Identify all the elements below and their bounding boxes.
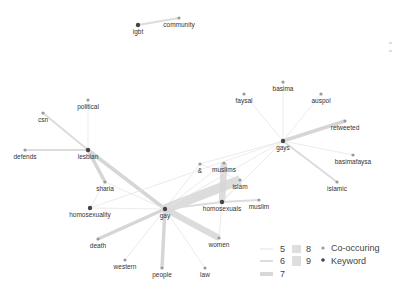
node-label: basimafaysa	[335, 158, 372, 166]
cooccurring-node-dot-icon	[242, 92, 245, 95]
cooccurring-node-dot-icon	[103, 180, 106, 183]
node-amp[interactable]: &	[198, 162, 203, 174]
edge-gays-amp	[200, 141, 283, 164]
node-basima[interactable]: basima	[273, 80, 294, 92]
cooccurring-node-dot-icon	[123, 258, 126, 261]
node-label: islamic	[327, 185, 348, 192]
cooccurring-node-dot-icon	[160, 266, 163, 269]
legend-weight-9: 9	[292, 256, 311, 266]
node-people[interactable]: people	[152, 266, 172, 279]
node-label: women	[208, 241, 230, 248]
cooccurring-node-dot-icon	[222, 161, 225, 164]
node-label: political	[77, 103, 99, 111]
legend-cooccurring: Co-occuring	[321, 243, 379, 253]
node-sharia[interactable]: sharia	[96, 180, 114, 192]
cooccurring-node-dot-icon	[351, 153, 354, 156]
legend-weight-6: 6	[260, 256, 285, 266]
edge-lesbian-csn	[43, 113, 88, 150]
node-label: western	[113, 263, 137, 270]
cooccurring-node-dot-icon	[86, 98, 89, 101]
cooccurring-node-dot-icon	[198, 162, 201, 165]
node-muslims[interactable]: muslims	[212, 161, 237, 173]
node-label: islam	[232, 183, 247, 190]
keyword-node-dot-icon	[220, 200, 224, 204]
edges-layer	[25, 18, 353, 268]
legend-weight-5-label: 5	[280, 244, 285, 254]
node-death[interactable]: death	[90, 237, 107, 249]
edge-homosexuals-muslim	[222, 200, 259, 202]
node-label: muslims	[212, 166, 237, 173]
cooccurring-node-dot-icon	[96, 237, 99, 240]
edge-gay-women	[165, 209, 219, 238]
node-label: lesbian	[78, 153, 99, 160]
keyword-node-dot-icon	[88, 206, 92, 210]
node-homosexuality[interactable]: homosexuality	[69, 206, 111, 219]
cooccurring-node-dot-icon	[319, 92, 322, 95]
node-label: faysal	[236, 97, 254, 105]
node-western[interactable]: western	[113, 258, 137, 270]
node-label: law	[200, 271, 210, 278]
legend-weight-7: 7	[260, 269, 285, 279]
keyword-node-dot-icon	[281, 139, 285, 143]
legend: 5 6 7 8 9 Co-occuring Keyword	[260, 243, 380, 279]
node-islamic[interactable]: islamic	[327, 180, 348, 192]
node-label: people	[152, 271, 172, 279]
keyword-dot-icon	[321, 258, 325, 262]
faint-scroll-indicator	[389, 42, 392, 56]
node-label: &	[198, 167, 203, 174]
node-label: gays	[276, 144, 290, 152]
node-community[interactable]: community	[163, 16, 195, 29]
keyword-node-dot-icon	[136, 23, 140, 27]
node-faysal[interactable]: faysal	[236, 92, 254, 105]
node-label: homosexuals	[203, 205, 242, 212]
node-retweeted[interactable]: retweeted	[331, 119, 360, 131]
legend-keyword-label: Keyword	[331, 256, 366, 266]
cooccurring-node-dot-icon	[217, 236, 220, 239]
node-label: muslim	[249, 203, 270, 210]
cooccurring-node-dot-icon	[335, 180, 338, 183]
node-label: gay	[160, 212, 171, 220]
keyword-node-dot-icon	[163, 207, 167, 211]
legend-weight-8: 8	[292, 244, 311, 254]
cooccurring-node-dot-icon	[238, 178, 241, 181]
cooccurring-dot-icon	[321, 246, 324, 249]
cooccurring-node-dot-icon	[343, 119, 346, 122]
node-label: sharia	[96, 185, 114, 192]
node-label: auspol	[311, 97, 331, 105]
node-label: homosexuality	[69, 211, 111, 219]
legend-weight-5: 5	[260, 244, 285, 254]
network-graph: igbtcommunitypoliticalcsndefendslesbians…	[0, 0, 401, 294]
edge-homosexuality-gay	[90, 208, 165, 209]
node-label: igbt	[133, 28, 144, 36]
node-label: defends	[13, 153, 37, 160]
legend-weight-9-label: 9	[306, 256, 311, 266]
cooccurring-node-dot-icon	[177, 16, 180, 19]
node-label: community	[163, 21, 195, 29]
cooccurring-node-dot-icon	[203, 266, 206, 269]
keyword-node-dot-icon	[86, 148, 90, 152]
node-label: retweeted	[331, 124, 360, 131]
node-women[interactable]: women	[208, 236, 230, 248]
node-law[interactable]: law	[200, 266, 210, 278]
cooccurring-node-dot-icon	[41, 111, 44, 114]
legend-cooccurring-label: Co-occuring	[331, 243, 380, 253]
node-basimafaysa[interactable]: basimafaysa	[335, 153, 372, 166]
legend-keyword: Keyword	[321, 256, 366, 266]
node-csn[interactable]: csn	[38, 111, 49, 123]
node-label: basima	[273, 85, 294, 92]
node-political[interactable]: political	[77, 98, 99, 111]
edge-gays-islamic	[283, 141, 337, 182]
cooccurring-node-dot-icon	[281, 80, 284, 83]
cooccurring-node-dot-icon	[257, 198, 260, 201]
edge-lesbian-gay	[88, 150, 165, 209]
cooccurring-node-dot-icon	[23, 148, 26, 151]
legend-weight-7-label: 7	[280, 269, 285, 279]
legend-weight-8-label: 8	[306, 244, 311, 254]
node-label: death	[90, 242, 107, 249]
node-auspol[interactable]: auspol	[311, 92, 331, 105]
node-label: csn	[38, 116, 49, 123]
legend-weight-6-label: 6	[280, 256, 285, 266]
